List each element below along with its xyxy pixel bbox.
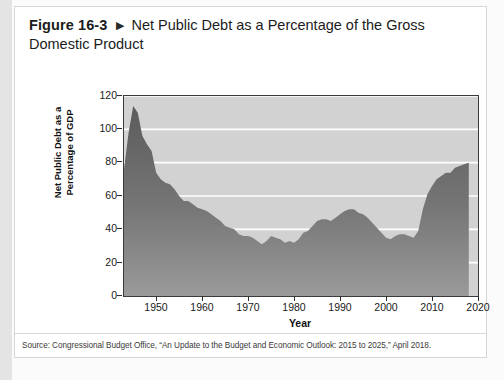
y-tick-mark (117, 128, 122, 129)
x-tick-label: 1980 (271, 301, 317, 313)
y-tick-label: 60 (77, 190, 117, 200)
y-tick-label: 80 (77, 156, 117, 166)
y-axis: 120 100 80 60 40 20 0 (43, 85, 117, 305)
y-tick-label: 20 (77, 257, 117, 267)
source-note: Source: Congressional Budget Office, “An… (22, 340, 482, 351)
y-tick-mark (117, 262, 122, 263)
figure-header: Figure 16-3▶Net Public Debt as a Percent… (29, 16, 469, 54)
page-background: Figure 16-3▶Net Public Debt as a Percent… (0, 0, 504, 380)
x-tick-label: 2010 (409, 301, 455, 313)
debt-area-series (124, 106, 469, 296)
x-tick-label: 1950 (133, 301, 179, 313)
y-tick-mark (117, 161, 122, 162)
source-divider (15, 333, 486, 334)
area-chart-svg (124, 96, 478, 296)
figure-card: Figure 16-3▶Net Public Debt as a Percent… (14, 6, 487, 358)
x-tick-label: 1960 (179, 301, 225, 313)
x-axis-title: Year (123, 317, 477, 329)
y-tick-label: 120 (77, 90, 117, 100)
y-tick-mark (117, 228, 122, 229)
y-tick-label: 40 (77, 223, 117, 233)
x-tick-label: 1990 (317, 301, 363, 313)
y-tick-label: 100 (77, 123, 117, 133)
y-tick-mark (117, 95, 122, 96)
chart: Net Public Debt as aPercentage of GDP 12… (43, 85, 481, 333)
figure-label: Figure 16-3 (29, 17, 107, 33)
x-tick-label: 2000 (363, 301, 409, 313)
triangle-right-icon: ▶ (116, 16, 124, 35)
y-tick-mark (117, 195, 122, 196)
y-tick-mark (117, 295, 122, 296)
y-tick-label: 0 (77, 290, 117, 300)
x-tick-label: 1970 (225, 301, 271, 313)
x-tick-label: 2020 (455, 301, 501, 313)
plot-area (123, 95, 479, 297)
